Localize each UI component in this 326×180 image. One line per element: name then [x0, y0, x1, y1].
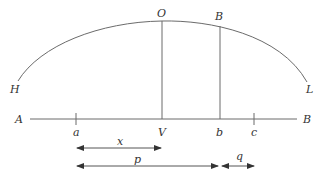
trajectory-diagram: O B H L A B a V b c x p q — [0, 0, 326, 180]
label-x: x — [117, 135, 124, 148]
label-b: b — [216, 126, 223, 139]
label-H: H — [9, 83, 20, 96]
label-p: p — [134, 153, 141, 166]
label-A: A — [14, 113, 23, 126]
label-V: V — [158, 126, 167, 139]
label-B-top: B — [214, 10, 223, 23]
label-B-right: B — [302, 113, 311, 126]
label-a: a — [73, 126, 80, 139]
label-q: q — [236, 150, 243, 163]
label-L: L — [305, 83, 313, 96]
label-c: c — [251, 126, 257, 139]
label-O: O — [157, 7, 166, 20]
